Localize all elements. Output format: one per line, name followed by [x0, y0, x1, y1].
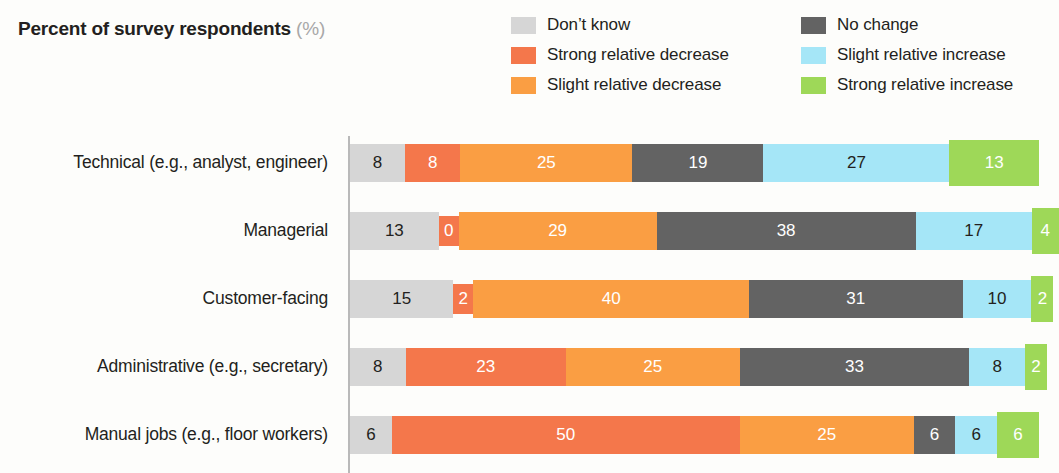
bar-segment-value: 25 [817, 426, 836, 443]
bar-segment-value: 8 [373, 358, 382, 375]
bar-segment-nc[interactable]: 33 [740, 348, 970, 386]
bar-segment-value: 38 [777, 222, 796, 239]
bar-segment-sd[interactable]: 50 [392, 416, 740, 454]
bar-segment-sd[interactable]: 8 [405, 144, 460, 182]
bar-segment-value: 13 [385, 222, 404, 239]
bar-segment-value: 2 [1038, 290, 1047, 307]
bar-segment-value: 6 [930, 426, 939, 443]
legend-label-slight_increase: Slight relative increase [837, 45, 1006, 65]
chart-plot-area: Technical (e.g., analyst, engineer)88251… [0, 128, 1047, 473]
legend-label-no_change: No change [837, 15, 918, 35]
bar-segment-sd[interactable]: 2 [453, 284, 473, 314]
bar-segment-ld[interactable]: 29 [459, 212, 657, 250]
bar-segment-dk[interactable]: 15 [350, 280, 453, 318]
legend-item-slight_decrease[interactable]: Slight relative decrease [511, 70, 729, 100]
legend-label-strong_decrease: Strong relative decrease [547, 45, 729, 65]
bar-segment-si[interactable]: 13 [949, 140, 1039, 186]
bar-segment-value: 23 [476, 358, 495, 375]
legend-column-2: No changeSlight relative increaseStrong … [801, 10, 1013, 100]
legend-column-1: Don’t knowStrong relative decreaseSlight… [511, 10, 729, 100]
category-label-4: Administrative (e.g., secretary) [0, 356, 340, 377]
stacked-bar: 1524031102 [350, 280, 1039, 318]
legend-item-slight_increase[interactable]: Slight relative increase [801, 40, 1013, 70]
table-row: Technical (e.g., analyst, engineer)88251… [0, 140, 1047, 185]
bar-rows: Technical (e.g., analyst, engineer)88251… [0, 128, 1047, 473]
legend-label-slight_decrease: Slight relative decrease [547, 75, 721, 95]
bar-segment-value: 8 [373, 154, 382, 171]
table-row: Administrative (e.g., secretary)82325338… [0, 344, 1047, 389]
legend-swatch-strong_decrease [511, 47, 536, 64]
bar-segment-value: 50 [556, 426, 575, 443]
bar-segment-sd[interactable]: 23 [406, 348, 566, 386]
bar-segment-li[interactable]: 10 [963, 280, 1032, 318]
legend-item-strong_increase[interactable]: Strong relative increase [801, 70, 1013, 100]
stacked-bar: 8825192713 [350, 144, 1039, 182]
legend-item-strong_decrease[interactable]: Strong relative decrease [511, 40, 729, 70]
bar-segment-value: 6 [1013, 426, 1022, 443]
bar-segment-nc[interactable]: 19 [632, 144, 763, 182]
bar-segment-value: 10 [988, 290, 1007, 307]
table-row: Customer-facing1524031102 [0, 276, 1047, 321]
bar-segment-ld[interactable]: 40 [473, 280, 749, 318]
legend-swatch-strong_increase [801, 77, 826, 94]
bar-segment-value: 40 [602, 290, 621, 307]
bar-segment-ld[interactable]: 25 [740, 416, 914, 454]
bar-segment-value: 4 [1041, 222, 1050, 239]
legend-label-strong_increase: Strong relative increase [837, 75, 1013, 95]
bar-segment-value: 0 [444, 222, 453, 239]
bar-segment-value: 29 [548, 222, 567, 239]
bar-segment-value: 31 [846, 290, 865, 307]
stacked-bar: 1302938174 [350, 212, 1039, 250]
bar-segment-value: 8 [428, 154, 437, 171]
legend-item-dont_know[interactable]: Don’t know [511, 10, 729, 40]
bar-segment-si[interactable]: 6 [997, 412, 1039, 458]
bar-segment-value: 2 [1031, 358, 1040, 375]
page-title: Percent of survey respondents (%) [18, 18, 325, 40]
chart-legend: Don’t knowStrong relative decreaseSlight… [511, 10, 1051, 118]
bar-segment-value: 27 [847, 154, 866, 171]
bar-segment-value: 6 [366, 426, 375, 443]
bar-segment-si[interactable]: 2 [1031, 276, 1053, 322]
category-label-5: Manual jobs (e.g., floor workers) [0, 424, 340, 445]
chart-title-unit: (%) [296, 18, 325, 39]
bar-segment-nc[interactable]: 31 [749, 280, 963, 318]
legend-swatch-slight_increase [801, 47, 826, 64]
bar-segment-value: 6 [972, 426, 981, 443]
bar-segment-dk[interactable]: 8 [350, 348, 406, 386]
bar-segment-li[interactable]: 8 [969, 348, 1025, 386]
bar-segment-dk[interactable]: 13 [350, 212, 439, 250]
bar-segment-value: 15 [392, 290, 411, 307]
category-label-3: Customer-facing [0, 288, 340, 309]
bar-segment-li[interactable]: 27 [763, 144, 949, 182]
bar-segment-value: 13 [985, 154, 1004, 171]
bar-segment-value: 8 [992, 358, 1001, 375]
bar-segment-nc[interactable]: 6 [914, 416, 956, 454]
bar-segment-value: 17 [964, 222, 983, 239]
bar-segment-li[interactable]: 17 [916, 212, 1032, 250]
chart-header: Percent of survey respondents (%) Don’t … [14, 10, 1034, 120]
legend-swatch-dont_know [511, 17, 536, 34]
bar-segment-si[interactable]: 2 [1025, 344, 1047, 390]
chart-title-main: Percent of survey respondents [18, 18, 291, 39]
bar-segment-si[interactable]: 4 [1032, 208, 1059, 254]
bar-segment-sd[interactable]: 0 [439, 216, 459, 246]
bar-segment-dk[interactable]: 8 [350, 144, 405, 182]
legend-label-dont_know: Don’t know [547, 15, 630, 35]
bar-segment-ld[interactable]: 25 [566, 348, 740, 386]
legend-swatch-slight_decrease [511, 77, 536, 94]
bar-segment-dk[interactable]: 6 [350, 416, 392, 454]
bar-segment-li[interactable]: 6 [955, 416, 997, 454]
stacked-bar: 823253382 [350, 348, 1039, 386]
bar-segment-ld[interactable]: 25 [460, 144, 632, 182]
table-row: Manual jobs (e.g., floor workers)6502566… [0, 412, 1047, 457]
category-label-1: Technical (e.g., analyst, engineer) [0, 152, 340, 173]
bar-segment-value: 25 [537, 154, 556, 171]
bar-segment-nc[interactable]: 38 [657, 212, 916, 250]
table-row: Managerial1302938174 [0, 208, 1047, 253]
stacked-bar: 65025666 [350, 416, 1039, 454]
legend-swatch-no_change [801, 17, 826, 34]
bar-segment-value: 25 [643, 358, 662, 375]
bar-segment-value: 33 [845, 358, 864, 375]
bar-segment-value: 2 [459, 290, 468, 307]
legend-item-no_change[interactable]: No change [801, 10, 1013, 40]
